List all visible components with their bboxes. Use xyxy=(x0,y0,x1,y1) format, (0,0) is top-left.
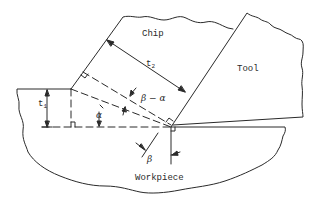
t1-subscript: 1 xyxy=(43,103,47,110)
right-angle-marker-tool xyxy=(171,127,175,131)
t2-arrowhead-top xyxy=(107,40,114,46)
t1-label: t1 xyxy=(38,100,47,109)
tool-label: Tool xyxy=(237,65,259,74)
alpha-tick-top xyxy=(100,105,103,108)
chip-outline xyxy=(71,16,233,89)
t2-arrowhead-bottom xyxy=(178,86,185,92)
cutting-geometry-diagram: Chip Tool Workpiece t2 t1 β − α α β xyxy=(0,0,319,206)
alpha-arrowhead xyxy=(97,121,101,126)
t2-subscript: 2 xyxy=(151,63,155,70)
right-angle-marker-tip xyxy=(166,118,173,122)
beta-alpha-arrowhead-lower xyxy=(122,107,126,112)
chip-label: Chip xyxy=(142,30,164,39)
t1-arrowhead-bottom xyxy=(45,121,49,127)
workpiece-label: Workpiece xyxy=(135,174,184,183)
beta-minus-alpha-label: β − α xyxy=(141,94,166,103)
right-angle-marker-base xyxy=(71,122,75,127)
alpha-label: α xyxy=(96,111,102,120)
t2-label: t2 xyxy=(146,60,155,69)
beta-arrowhead-right xyxy=(172,151,178,155)
beta-label: β xyxy=(147,155,152,164)
right-angle-marker-shear xyxy=(81,74,88,78)
t1-arrowhead-top xyxy=(45,90,49,96)
